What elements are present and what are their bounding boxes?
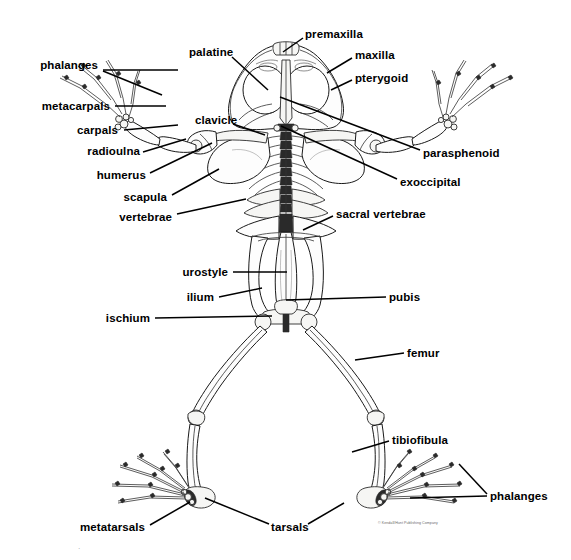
stray-mark: · [78,545,80,552]
label-pterygoid: pterygoid [355,72,408,85]
label-metacarpals: metacarpals [42,100,110,113]
label-ischium: ischium [106,312,150,325]
label-tibiofibula: tibiofibula [392,434,448,447]
label-humerus: humerus [97,169,146,182]
label-exoccipital: exoccipital [400,176,461,189]
label-vertebrae: vertebrae [119,211,172,224]
label-metatarsals: metatarsals [80,521,145,534]
label-urostyle: urostyle [182,266,228,279]
label-sacral-vertebrae: sacral vertebrae [336,208,426,221]
label-radioulna: radioulna [87,145,140,158]
label-ilium: ilium [187,291,214,304]
label-clavicle: clavicle [195,114,237,127]
label-tarsals: tarsals [271,521,309,534]
label-phalanges-hindlimb: phalanges [490,490,548,503]
label-layer: phalangesmetacarpalscarpalsradioulnahume… [0,0,571,560]
publisher-credit: © Kendall/Hunt Publishing Company [378,521,438,525]
label-pubis: pubis [389,291,420,304]
label-parasphenoid: parasphenoid [423,147,500,160]
label-phalanges-forelimb: phalanges [40,59,98,72]
label-palatine: palatine [189,46,233,59]
label-scapula: scapula [123,191,167,204]
label-premaxilla: premaxilla [305,28,363,41]
frog-skeleton-figure: .bone { fill:#fdfdfd; stroke:#1a1a1a; st… [0,0,571,560]
label-carpals: carpals [77,124,118,137]
label-maxilla: maxilla [355,49,395,62]
label-femur: femur [407,347,439,360]
